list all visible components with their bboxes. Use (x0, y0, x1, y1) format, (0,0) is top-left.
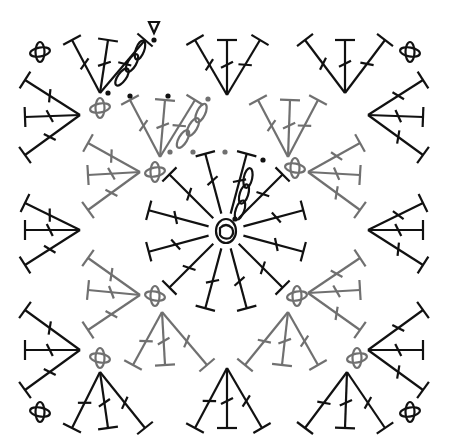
double-crochet-icon (217, 368, 237, 428)
chain-icon (184, 116, 201, 138)
double-crochet-icon (162, 312, 215, 371)
double-crochet-icon (239, 244, 290, 295)
chain-icon (29, 402, 50, 422)
double-crochet-icon (82, 172, 140, 218)
chain-icon (144, 286, 165, 306)
slip-stitch-icon (127, 93, 132, 98)
double-crochet-icon (83, 134, 140, 172)
round-1 (146, 151, 306, 311)
double-crochet-icon (82, 250, 140, 295)
chain-icon (29, 42, 50, 62)
double-crochet-icon (239, 167, 290, 218)
join-arrow-icon (248, 199, 260, 211)
double-crochet-icon (368, 115, 429, 163)
double-crochet-icon (162, 244, 213, 295)
double-crochet-icon (186, 368, 227, 433)
double-crochet-icon (63, 35, 100, 93)
double-crochet-icon (249, 95, 288, 157)
double-crochet-icon (217, 40, 237, 95)
double-crochet-icon (368, 72, 428, 115)
chain-icon (399, 42, 420, 62)
double-crochet-icon (20, 230, 80, 273)
double-crochet-icon (227, 35, 269, 95)
double-crochet-icon (308, 293, 366, 338)
slip-stitch-icon (165, 93, 170, 98)
chain-icon (113, 66, 131, 87)
chain-icon (144, 162, 165, 182)
double-crochet-icon (19, 350, 80, 398)
slip-stitch-icon (167, 149, 172, 154)
double-crochet-icon (63, 372, 100, 432)
chain-icon (89, 98, 110, 118)
slip-stitch-icon (260, 157, 265, 162)
double-crochet-icon (162, 167, 213, 218)
double-crochet-icon (368, 302, 429, 350)
double-crochet-icon (121, 95, 160, 157)
slip-stitch-icon (222, 149, 227, 154)
double-crochet-icon (308, 172, 366, 218)
double-crochet-icon (124, 312, 162, 370)
double-crochet-icon (368, 194, 427, 230)
slip-stitch-icon (190, 149, 195, 154)
double-crochet-icon (21, 194, 80, 230)
double-crochet-icon (19, 115, 80, 163)
slip-stitch-icon (232, 216, 237, 221)
double-crochet-icon (20, 72, 80, 115)
chain-icon (133, 39, 148, 61)
double-crochet-icon (19, 302, 80, 350)
chain-icon (399, 402, 420, 422)
double-crochet-icon (288, 312, 327, 370)
double-crochet-icon (227, 368, 271, 433)
double-crochet-icon (186, 35, 227, 95)
double-crochet-icon (288, 95, 327, 157)
double-crochet-icon (368, 350, 429, 398)
chain-icon (284, 158, 305, 178)
chain-icon (286, 286, 307, 306)
start-marker-icon (149, 22, 159, 43)
double-crochet-icon (25, 220, 80, 240)
double-crochet-icon (308, 280, 361, 300)
double-crochet-icon (368, 230, 428, 273)
double-crochet-icon (308, 250, 366, 293)
slip-stitch-icon (205, 96, 210, 101)
double-crochet-icon (345, 34, 393, 93)
chain-icon (346, 348, 367, 368)
double-crochet-icon (297, 34, 345, 93)
slip-stitch-icon (105, 90, 110, 95)
double-crochet-icon (347, 372, 393, 434)
double-crochet-icon (297, 372, 347, 434)
round-3 (19, 34, 429, 435)
round-2 (82, 95, 368, 372)
double-crochet-icon (368, 220, 423, 240)
double-crochet-icon (308, 134, 365, 172)
double-crochet-icon (82, 295, 140, 338)
crochet-chart (0, 0, 450, 443)
chain-icon (89, 348, 110, 368)
chain-icon (193, 102, 209, 124)
